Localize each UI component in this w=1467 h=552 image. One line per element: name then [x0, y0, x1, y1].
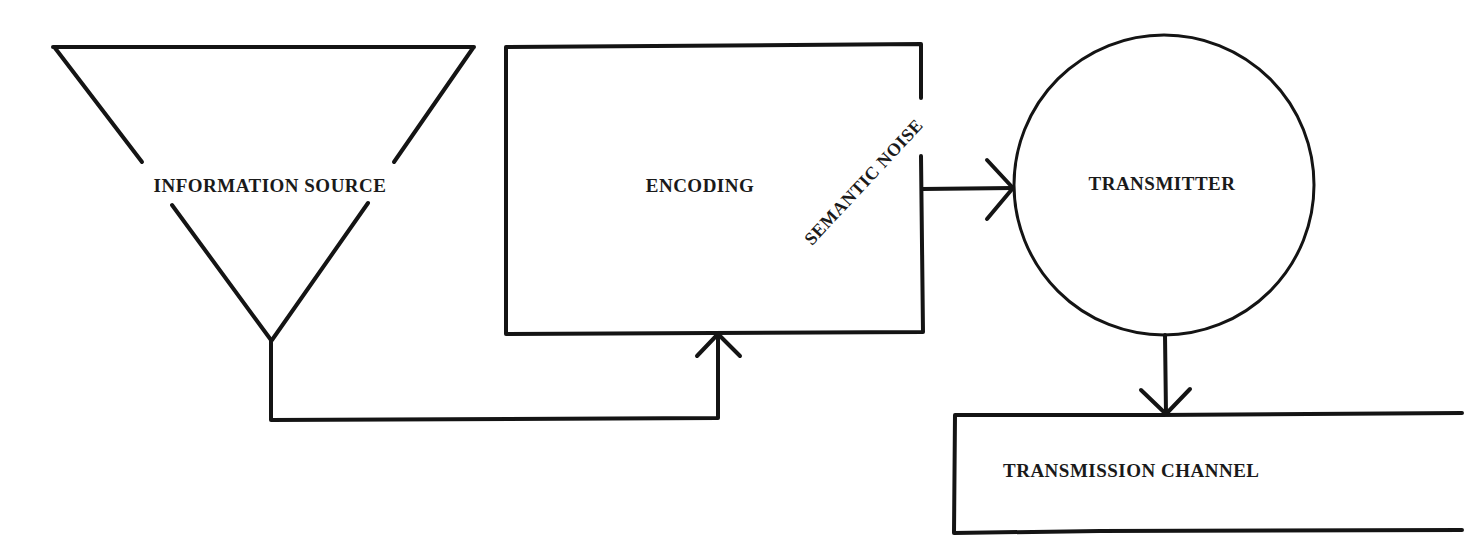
encoding-label: ENCODING	[646, 175, 755, 196]
source-to-encoding-connector	[271, 334, 740, 420]
transmission-channel-node: TRANSMISSION CHANNEL	[954, 413, 1462, 533]
transmitter-to-channel-connector	[1141, 335, 1190, 414]
triangle-left-edge-lower	[172, 205, 271, 340]
triangle-right-edge-upper	[394, 48, 473, 162]
semantic-noise-label: SEMANTIC NOISE	[800, 115, 927, 249]
communication-diagram: INFORMATION SOURCE ENCODING SEMANTIC NOI…	[0, 0, 1467, 552]
information-source-node: INFORMATION SOURCE	[53, 47, 474, 340]
transmitter-node: TRANSMITTER	[1014, 35, 1314, 335]
triangle-right-edge-lower	[272, 203, 368, 340]
connector-line	[271, 334, 718, 420]
connector-line	[922, 188, 1013, 189]
information-source-label: INFORMATION SOURCE	[154, 175, 387, 196]
connector-line	[1165, 335, 1166, 414]
transmitter-label: TRANSMITTER	[1089, 173, 1236, 194]
encoding-to-transmitter-connector	[922, 160, 1013, 219]
triangle-left-edge-upper	[55, 48, 142, 162]
transmission-channel-label: TRANSMISSION CHANNEL	[1003, 460, 1260, 481]
